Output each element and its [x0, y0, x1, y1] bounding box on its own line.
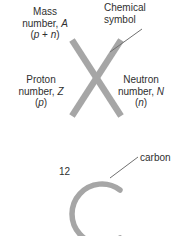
label-neutron-number: Neutron number, N (n) [102, 74, 180, 109]
carbon-leader-line [110, 157, 138, 178]
label-proton-number-line1: Proton [4, 74, 78, 86]
symbol-n-neutron: n [138, 97, 144, 108]
label-proton-number-line2-text: number, [18, 86, 57, 97]
label-mass-number-line2-text: number, [22, 18, 61, 29]
carbon-symbol-c-glyph [72, 184, 120, 236]
label-neutron-number-line2: number, N [102, 86, 180, 98]
label-chemical-symbol-line2: symbol [104, 14, 180, 26]
label-proton-number-line3: (p) [4, 97, 78, 109]
label-mass-number-line3: (p + n) [8, 29, 82, 41]
label-mass-number: Mass number, A (p + n) [8, 6, 82, 41]
chemical-symbol-leader-line [110, 29, 142, 52]
label-mass-number-line2: number, A [8, 18, 82, 30]
label-proton-number: Proton number, Z (p) [4, 74, 78, 109]
label-mass-number-line1: Mass [8, 6, 82, 18]
label-neutron-number-line3: (n) [102, 97, 180, 109]
symbol-a: A [61, 18, 68, 29]
label-element-name: carbon [140, 152, 171, 164]
symbol-n: n [51, 29, 57, 40]
symbol-z: Z [57, 86, 63, 97]
label-chemical-symbol: Chemical symbol [104, 2, 180, 25]
symbol-n-capital: N [157, 86, 164, 97]
symbol-p-proton: p [38, 97, 44, 108]
label-mass-number-value: 12 [48, 166, 70, 178]
label-neutron-number-line1: Neutron [102, 74, 180, 86]
isotope-notation-figure: Mass number, A (p + n) Proton number, Z … [0, 0, 183, 236]
label-proton-number-line2: number, Z [4, 86, 78, 98]
label-chemical-symbol-line1: Chemical [104, 2, 180, 14]
symbol-p: p [34, 29, 40, 40]
label-neutron-number-line2-text: number, [118, 86, 157, 97]
